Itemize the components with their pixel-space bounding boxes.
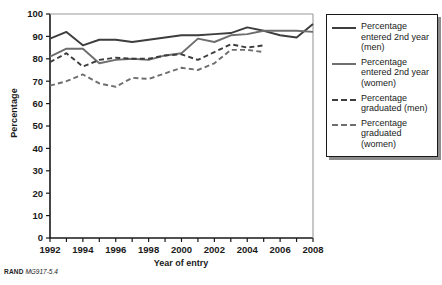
y-tick-label: 70 xyxy=(32,76,43,87)
x-tick-label: 2006 xyxy=(270,244,291,255)
y-tick-label: 20 xyxy=(32,188,43,199)
legend-item: Percentage graduated (men) xyxy=(332,93,433,114)
x-tick-label: 2004 xyxy=(237,244,259,255)
data-series-line xyxy=(50,44,264,66)
legend-label: Percentage graduated (women) xyxy=(361,118,433,150)
y-tick-label: 50 xyxy=(32,120,43,131)
plot-frame xyxy=(50,14,313,238)
source-note-id: MG917-5.4 xyxy=(25,268,58,275)
x-tick-label: 1994 xyxy=(72,244,94,255)
legend-swatch-solid-men-icon xyxy=(332,23,356,34)
legend-swatch-dashed-women-icon xyxy=(332,120,356,131)
source-note: RAND MG917-5.4 xyxy=(4,268,58,275)
x-tick-label: 1992 xyxy=(39,244,60,255)
source-note-prefix: RAND xyxy=(4,268,24,275)
x-tick-label: 2000 xyxy=(171,244,192,255)
x-tick-label: 2008 xyxy=(302,244,323,255)
legend-item: Percentage graduated (women) xyxy=(332,118,433,150)
y-tick-label: 60 xyxy=(32,98,43,109)
legend-swatch-solid-women-icon xyxy=(332,59,356,70)
legend-swatch-dashed-men-icon xyxy=(332,95,356,106)
chart-legend: Percentage entered 2nd year (men) Percen… xyxy=(326,14,438,157)
y-tick-label: 10 xyxy=(32,210,43,221)
data-series-line xyxy=(50,50,264,87)
x-tick-label: 2002 xyxy=(204,244,225,255)
data-series-line xyxy=(50,24,313,45)
x-axis-ticks: 199219941996199820002002200420062008 xyxy=(39,238,323,255)
y-axis-ticks: 0102030405060708090100 xyxy=(27,8,50,243)
y-tick-label: 90 xyxy=(32,31,43,42)
x-tick-label: 1996 xyxy=(105,244,126,255)
y-tick-label: 0 xyxy=(38,232,43,243)
x-tick-label: 1998 xyxy=(138,244,159,255)
legend-label: Percentage entered 2nd year (men) xyxy=(361,21,433,53)
data-series-group xyxy=(50,24,313,87)
legend-label: Percentage entered 2nd year (women) xyxy=(361,57,433,89)
y-tick-label: 30 xyxy=(32,165,43,176)
legend-item: Percentage entered 2nd year (men) xyxy=(332,21,433,53)
legend-label: Percentage graduated (men) xyxy=(361,93,433,114)
y-tick-label: 100 xyxy=(27,8,43,19)
y-tick-label: 40 xyxy=(32,143,43,154)
figure-container: Percentage Year of entry 010203040506070… xyxy=(0,0,442,285)
legend-item: Percentage entered 2nd year (women) xyxy=(332,57,433,89)
y-tick-label: 80 xyxy=(32,53,43,64)
